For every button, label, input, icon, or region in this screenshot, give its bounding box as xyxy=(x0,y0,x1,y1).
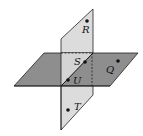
point-s-marker xyxy=(83,60,87,64)
point-q-label: Q xyxy=(106,64,114,75)
point-r-marker xyxy=(85,19,89,23)
point-r-label: R xyxy=(81,24,90,35)
point-u-label: U xyxy=(73,75,82,86)
point-u-marker xyxy=(66,78,70,82)
intersecting-planes-diagram: RSUQT xyxy=(0,0,143,136)
point-s-label: S xyxy=(74,56,81,67)
point-t-marker xyxy=(66,108,70,112)
point-q-marker xyxy=(116,59,120,63)
